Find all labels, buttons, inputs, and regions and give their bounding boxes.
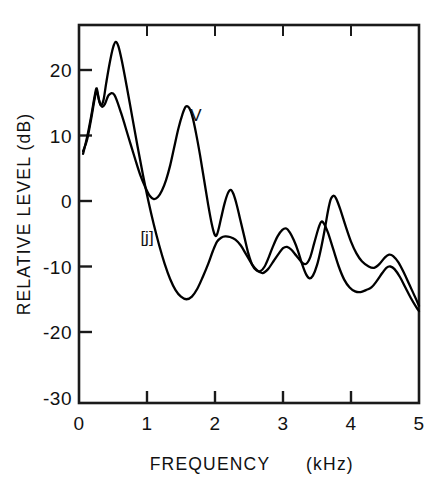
x-tick-label-4: 4 [345, 413, 356, 434]
curve-label-V: V [190, 106, 202, 125]
y-tick-label--20: -20 [43, 322, 72, 343]
curve-label-j: [j] [140, 228, 153, 247]
y-tick-label--10: -10 [43, 257, 72, 278]
x-tick-label-2: 2 [209, 413, 220, 434]
x-tick-label-1: 1 [141, 413, 152, 434]
curve-j [83, 42, 419, 311]
spectrum-chart: 20100-10-20-30 012345 [j]V RELATIVE LEVE… [0, 0, 443, 494]
x-axis-title-main: FREQUENCY [150, 454, 271, 474]
figure-container: 20100-10-20-30 012345 [j]V RELATIVE LEVE… [0, 0, 443, 494]
y-tick-label-20: 20 [50, 60, 72, 81]
data-curves [83, 42, 419, 311]
x-tick-label-5: 5 [413, 413, 424, 434]
x-axis-title-unit: (kHz) [306, 454, 354, 474]
x-tick-label-0: 0 [73, 413, 84, 434]
y-tick-label--30: -30 [43, 388, 72, 409]
curve-annotations: [j]V [140, 106, 202, 247]
y-axis-tick-labels: 20100-10-20-30 [43, 60, 72, 409]
plot-frame [79, 25, 419, 403]
y-tick-label-10: 10 [50, 126, 72, 147]
x-axis-tick-labels: 012345 [73, 413, 424, 434]
plot-border [79, 25, 419, 403]
x-axis-ticks [147, 25, 351, 403]
y-axis-ticks [79, 70, 92, 332]
x-tick-label-3: 3 [277, 413, 288, 434]
y-tick-label-0: 0 [61, 191, 72, 212]
y-axis-title: RELATIVE LEVEL (dB) [14, 113, 34, 316]
